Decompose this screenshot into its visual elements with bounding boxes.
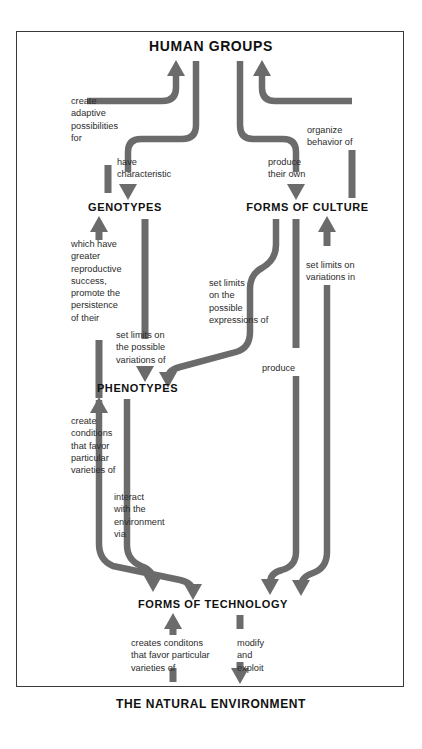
- edge-label-create-adaptive-possibilities-for: create adaptive possibilities for: [71, 95, 118, 144]
- arrowhead-up-human-groups-right: [253, 60, 271, 76]
- node-genotypes-label: GENOTYPES: [88, 201, 162, 213]
- arrowhead-down-forms-of-culture: [287, 184, 305, 200]
- ribbon-stub-genotypes-up: [105, 165, 112, 193]
- edge-label-produce: produce: [262, 362, 295, 374]
- node-genotypes: GENOTYPES: [0, 201, 250, 213]
- arrowhead-up-human-groups-left: [167, 60, 185, 76]
- arrowhead-up-phenotypes: [90, 397, 108, 413]
- arrowhead-down-genotypes: [119, 184, 137, 200]
- node-phenotypes: PHENOTYPES: [60, 382, 215, 394]
- edge-label-interact-with-the-environment-via: interact with the environment via: [114, 491, 165, 540]
- edge-label-set-limits-on-the-possible-variations-of: set limits on the possible variations of: [116, 329, 166, 366]
- ribbon-forms-of-culture-to-human-groups: [262, 72, 352, 101]
- diagram-connectors: [0, 0, 422, 749]
- arrowhead-down-phenotypes-left: [136, 366, 154, 382]
- edge-label-set-limits-on-the-possible-expressions-of: set limits on the possible expressions o…: [209, 277, 268, 326]
- ribbon-culture-produce-to-technology: [270, 376, 296, 583]
- edge-label-have-characteristic: have characteristic: [117, 156, 171, 181]
- arrowhead-down-technology-far-right: [292, 580, 310, 596]
- ribbon-stub-up-culture: [324, 228, 331, 246]
- node-human-groups: HUMAN GROUPS: [0, 38, 422, 54]
- ribbon-stub-technology-down: [237, 615, 244, 629]
- ribbon-stub-culture-up: [349, 150, 356, 198]
- arrowhead-down-technology-right-inner: [261, 579, 279, 595]
- edge-label-which-have-greater-reproductive-success: which have greater reproductive success,…: [71, 238, 122, 324]
- edge-label-creates-conditons-that-favor-particular-varieties-of: creates conditons that favor particular …: [131, 637, 210, 674]
- edge-label-set-limits-on-variations-in: set limits on variations in: [306, 259, 355, 284]
- node-human-groups-label: HUMAN GROUPS: [149, 38, 273, 54]
- ribbon-technology-to-culture: [301, 285, 327, 586]
- node-the-natural-environment-label: THE NATURAL ENVIRONMENT: [116, 697, 306, 711]
- edge-label-produce-their-own: produce their own: [268, 156, 305, 181]
- node-phenotypes-label: PHENOTYPES: [97, 382, 178, 394]
- node-the-natural-environment: THE NATURAL ENVIRONMENT: [0, 697, 422, 711]
- ribbon-culture-down-produce: [293, 219, 300, 348]
- node-forms-of-culture-label: FORMS OF CULTURE: [246, 201, 368, 213]
- node-forms-of-technology: FORMS OF TECHNOLOGY: [80, 598, 346, 610]
- ribbon-genotypes-down-long: [142, 219, 149, 339]
- node-forms-of-culture: FORMS OF CULTURE: [215, 201, 400, 213]
- edge-label-create-conditions-that-favor-particular-varieties-of: create conditions that favor particular …: [71, 415, 115, 476]
- ribbon-stub-up-technology: [170, 625, 177, 635]
- ribbon-phenotypes-to-technology: [127, 399, 153, 580]
- edge-label-modify-and-exploit: modify and exploit: [237, 637, 264, 674]
- edge-label-organize-behavior-of: organize behavior of: [307, 124, 352, 149]
- node-forms-of-technology-label: FORMS OF TECHNOLOGY: [138, 598, 288, 610]
